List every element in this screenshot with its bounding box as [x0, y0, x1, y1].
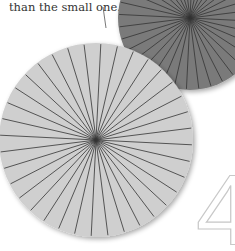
leader-line	[103, 7, 106, 28]
page-number: 4	[196, 160, 235, 251]
large-circle	[0, 43, 193, 237]
